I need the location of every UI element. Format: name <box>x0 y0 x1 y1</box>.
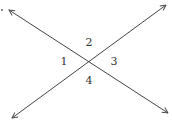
dot-mark <box>1 9 3 11</box>
angle-label-2: 2 <box>86 36 93 49</box>
angle-label-4: 4 <box>86 74 93 87</box>
intersecting-lines-diagram: 1 2 3 4 <box>0 0 172 130</box>
angle-label-1: 1 <box>61 55 68 68</box>
angle-label-3: 3 <box>111 55 118 68</box>
line-b <box>12 5 166 118</box>
